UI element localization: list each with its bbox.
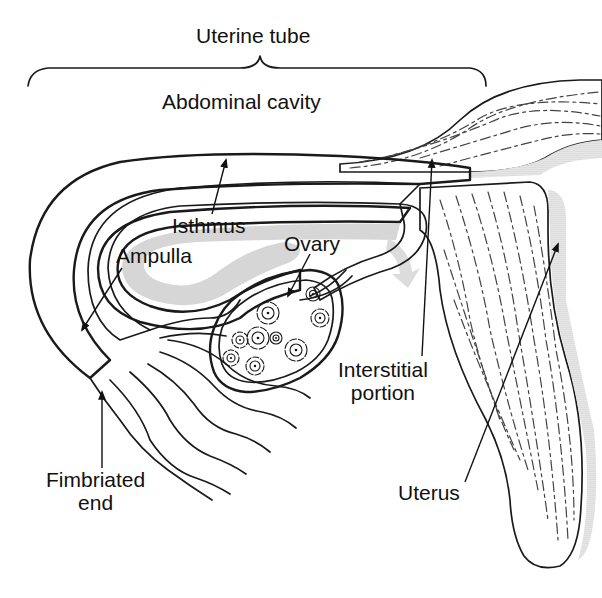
- ligament-shade: [470, 140, 602, 178]
- label-ampulla: Ampulla: [116, 244, 192, 267]
- label-interstitial-line1: Interstitial: [338, 358, 428, 381]
- diagram-canvas: Uterine tube Abdominal cavity Isthmus Am…: [0, 0, 602, 598]
- label-abdominal-cavity: Abdominal cavity: [162, 90, 321, 113]
- uterine-tube-brace: [28, 56, 486, 86]
- label-interstitial-portion: Interstitial portion: [338, 358, 428, 404]
- label-fimbriated-end: Fimbriated end: [46, 468, 145, 514]
- label-fimbriated-line1: Fimbriated: [46, 468, 145, 491]
- label-interstitial-line2: portion: [338, 381, 428, 404]
- interstitial-arrow: [422, 160, 432, 356]
- label-arrows: [82, 160, 558, 482]
- label-isthmus: Isthmus: [172, 214, 246, 237]
- label-uterus: Uterus: [398, 481, 460, 504]
- label-ovary: Ovary: [284, 232, 340, 255]
- label-uterine-tube: Uterine tube: [196, 24, 310, 47]
- label-fimbriated-line2: end: [46, 491, 145, 514]
